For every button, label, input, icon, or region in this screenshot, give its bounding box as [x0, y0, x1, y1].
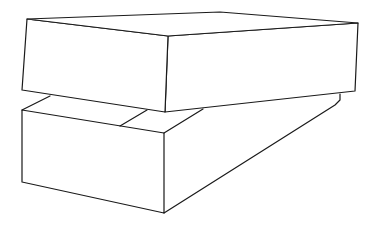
top-box-right-face [165, 23, 358, 112]
bottom-box-divider [120, 110, 147, 126]
stacked-boxes-drawing [0, 0, 377, 226]
bottom-box-front-face [22, 110, 164, 213]
bottom-box [22, 94, 340, 213]
bottom-box-right-edge [164, 94, 340, 213]
top-box [22, 12, 358, 112]
bottom-box-top-right-edge [164, 109, 203, 133]
bottom-box-top-left-edge [22, 96, 50, 110]
